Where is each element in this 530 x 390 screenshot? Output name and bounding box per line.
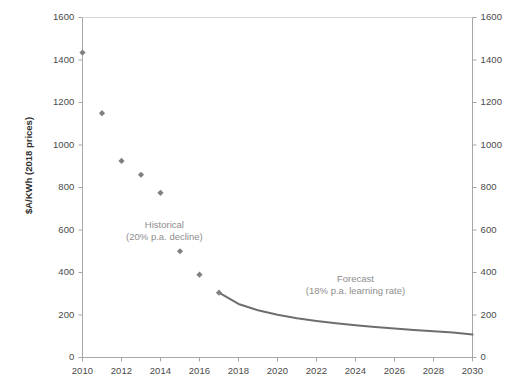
historical-annotation: Historical (20% p.a. decline) [89,219,239,244]
y-axis-label-left: 1600 [37,11,75,22]
x-axis-label: 2026 [375,365,415,376]
y-axis-label-right: 1000 [481,139,521,150]
historical-data-point [79,49,85,55]
historical-annotation-line1: Historical [89,219,239,232]
y-axis-label-right: 1400 [481,54,521,65]
x-axis-label: 2014 [141,365,181,376]
x-axis-label: 2020 [258,365,298,376]
x-axis-label: 2018 [219,365,259,376]
x-axis-label: 2024 [336,365,376,376]
y-axis-label-left: 200 [37,309,75,320]
historical-data-point [196,272,202,278]
x-axis-label: 2028 [414,365,454,376]
y-axis-label-left: 0 [37,351,75,362]
y-axis-label-left: 800 [37,181,75,192]
forecast-annotation: Forecast (18% p.a. learning rate) [281,273,431,298]
x-axis-label: 2010 [63,365,103,376]
forecast-line [219,293,473,335]
chart-container: $A/KWh (2018 prices) 1600140012001000800… [0,0,530,390]
x-axis-label: 2022 [297,365,337,376]
y-axis-label-left: 400 [37,266,75,277]
historical-data-point [138,172,144,178]
y-axis-label-right: 200 [481,309,521,320]
historical-data-point [177,248,183,254]
forecast-annotation-line2: (18% p.a. learning rate) [281,285,431,298]
forecast-annotation-line1: Forecast [281,273,431,286]
x-axis-label: 2016 [180,365,220,376]
historical-data-point [99,110,105,116]
y-axis-label-right: 400 [481,266,521,277]
y-axis-label-left: 1200 [37,96,75,107]
plot-canvas [0,0,530,390]
historical-data-point [118,158,124,164]
y-axis-label-right: 600 [481,224,521,235]
y-axis-label-left: 600 [37,224,75,235]
x-axis-label: 2030 [453,365,493,376]
y-axis-label-right: 0 [481,351,521,362]
historical-data-point [157,190,163,196]
y-axis-label-left: 1400 [37,54,75,65]
x-axis-label: 2012 [102,365,142,376]
y-axis-label-left: 1000 [37,139,75,150]
y-axis-label-right: 1200 [481,96,521,107]
y-axis-label-right: 1600 [481,11,521,22]
y-axis-label-right: 800 [481,181,521,192]
historical-annotation-line2: (20% p.a. decline) [89,231,239,244]
